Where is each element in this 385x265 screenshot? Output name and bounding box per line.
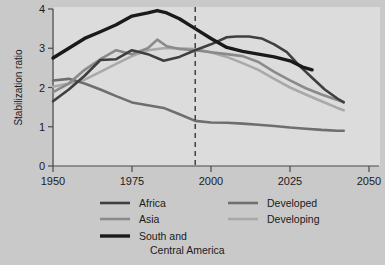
x-tick-label: 1950	[41, 175, 65, 187]
x-tick-label: 2000	[199, 175, 223, 187]
x-tick-label: 2025	[278, 175, 302, 187]
y-tick-label: 0	[39, 160, 45, 172]
chart-container: 01234 19501975200020252050 Stabilization…	[0, 0, 385, 265]
y-axis-title-text: Stabilization ratio	[13, 49, 24, 126]
y-tick-label: 3	[39, 42, 45, 54]
legend-label: South and	[139, 230, 187, 242]
legend-label: Developing	[267, 213, 320, 225]
y-tick-label: 2	[39, 82, 45, 94]
x-tick-label: 1975	[120, 175, 144, 187]
y-tick-label: 1	[39, 121, 45, 133]
legend-label-line2: Central America	[150, 244, 225, 256]
legend-label: Developed	[267, 197, 317, 209]
x-tick-label: 2050	[357, 175, 381, 187]
y-tick-label: 4	[39, 3, 45, 15]
stabilization-ratio-line-chart: 01234 19501975200020252050 Stabilization…	[0, 0, 385, 265]
legend-label: Africa	[139, 197, 166, 209]
legend-label: Asia	[139, 213, 160, 225]
y-axis-title: Stabilization ratio	[13, 49, 24, 126]
